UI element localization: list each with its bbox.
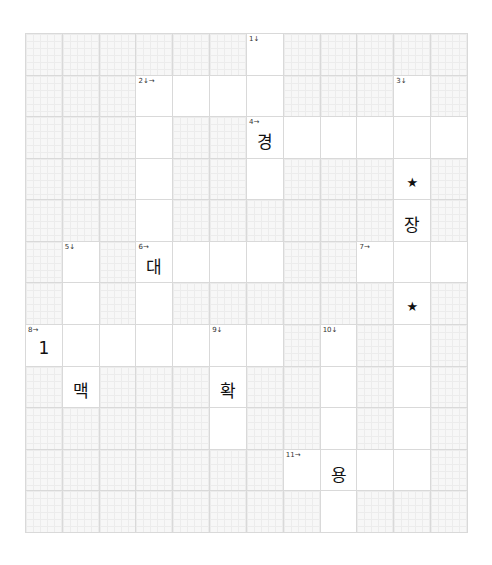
blocked-cell (100, 117, 137, 159)
grid-cell[interactable] (247, 325, 284, 367)
grid-cell[interactable] (394, 450, 431, 492)
grid-cell[interactable]: 9↓ (210, 325, 247, 367)
grid-cell[interactable] (284, 117, 321, 159)
grid-cell[interactable]: 3↓ (394, 76, 431, 118)
blocked-cell (173, 491, 210, 533)
grid-cell[interactable] (136, 200, 173, 242)
blocked-cell (357, 283, 394, 325)
clue-number: 2↓→ (138, 77, 154, 85)
blocked-cell (26, 159, 63, 201)
grid-cell[interactable]: ★ (394, 159, 431, 201)
blocked-cell (100, 200, 137, 242)
star-icon: ★ (394, 289, 430, 324)
blocked-cell (284, 76, 321, 118)
grid-cell[interactable]: 10↓ (321, 325, 358, 367)
grid-cell[interactable] (321, 408, 358, 450)
blocked-cell (136, 450, 173, 492)
grid-cell[interactable]: 6→대 (136, 242, 173, 284)
blocked-cell (100, 491, 137, 533)
blocked-cell (63, 117, 100, 159)
cell-letter: 확 (210, 373, 246, 408)
grid-cell[interactable] (394, 242, 431, 284)
blocked-cell (210, 117, 247, 159)
grid-cell[interactable] (136, 325, 173, 367)
blocked-cell (63, 200, 100, 242)
blocked-cell (247, 491, 284, 533)
grid-cell[interactable]: ★ (394, 283, 431, 325)
grid-cell[interactable]: 5↓ (63, 242, 100, 284)
grid-cell[interactable] (210, 408, 247, 450)
blocked-cell (173, 367, 210, 409)
blocked-cell (284, 325, 321, 367)
grid-cell[interactable] (431, 242, 468, 284)
grid-cell[interactable]: 1↓ (247, 34, 284, 76)
grid-cell[interactable] (63, 325, 100, 367)
blocked-cell (431, 76, 468, 118)
blocked-cell (284, 283, 321, 325)
grid-cell[interactable]: 8→1 (26, 325, 63, 367)
grid-cell[interactable] (394, 117, 431, 159)
grid-cell[interactable] (394, 325, 431, 367)
blocked-cell (394, 491, 431, 533)
grid-cell[interactable] (321, 117, 358, 159)
grid-cell[interactable] (394, 367, 431, 409)
grid-cell[interactable] (173, 76, 210, 118)
blocked-cell (321, 242, 358, 284)
grid-cell[interactable] (63, 283, 100, 325)
grid-cell[interactable] (247, 76, 284, 118)
blocked-cell (26, 76, 63, 118)
grid-cell[interactable] (136, 283, 173, 325)
blocked-cell (210, 200, 247, 242)
grid-cell[interactable]: 장 (394, 200, 431, 242)
grid-cell[interactable]: 맥 (63, 367, 100, 409)
blocked-cell (63, 34, 100, 76)
grid-cell[interactable] (321, 367, 358, 409)
grid-cell[interactable] (431, 117, 468, 159)
grid-cell[interactable] (100, 325, 137, 367)
grid-cell[interactable]: 4→경 (247, 117, 284, 159)
grid-cell[interactable] (136, 117, 173, 159)
grid-cell[interactable] (394, 408, 431, 450)
blocked-cell (357, 325, 394, 367)
blocked-cell (210, 34, 247, 76)
blocked-cell (26, 200, 63, 242)
blocked-cell (431, 200, 468, 242)
clue-number: 3↓ (396, 77, 406, 85)
grid-cell[interactable] (210, 76, 247, 118)
blocked-cell (26, 242, 63, 284)
grid-cell[interactable] (173, 325, 210, 367)
grid-cell[interactable] (357, 117, 394, 159)
blocked-cell (26, 283, 63, 325)
grid-cell[interactable]: 2↓→ (136, 76, 173, 118)
blocked-cell (100, 283, 137, 325)
blocked-cell (357, 34, 394, 76)
blocked-cell (284, 491, 321, 533)
grid-cell[interactable] (357, 450, 394, 492)
blocked-cell (26, 367, 63, 409)
blocked-cell (210, 283, 247, 325)
clue-number: 7→ (359, 243, 369, 251)
blocked-cell (357, 491, 394, 533)
blocked-cell (100, 408, 137, 450)
grid-cell[interactable] (247, 242, 284, 284)
clue-number: 9↓ (212, 326, 222, 334)
blocked-cell (431, 325, 468, 367)
grid-cell[interactable] (136, 159, 173, 201)
grid-cell[interactable] (173, 242, 210, 284)
blocked-cell (100, 76, 137, 118)
blocked-cell (247, 200, 284, 242)
clue-number: 1↓ (249, 35, 259, 43)
grid-cell[interactable]: 11→ (284, 450, 321, 492)
grid-cell[interactable] (247, 159, 284, 201)
clue-number: 10↓ (323, 326, 338, 334)
blocked-cell (357, 76, 394, 118)
grid-cell[interactable]: 확 (210, 367, 247, 409)
cell-letter: 장 (394, 206, 430, 241)
grid-cell[interactable] (321, 491, 358, 533)
grid-cell[interactable]: 7→ (357, 242, 394, 284)
grid-cell[interactable] (210, 242, 247, 284)
blocked-cell (100, 242, 137, 284)
blocked-cell (284, 159, 321, 201)
grid-cell[interactable]: 용 (321, 450, 358, 492)
cell-letter: 대 (136, 248, 172, 283)
